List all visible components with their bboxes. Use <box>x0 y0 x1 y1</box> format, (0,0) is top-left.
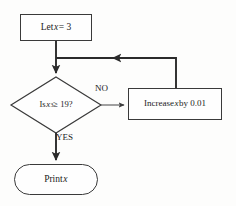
process-box-increase <box>128 88 222 120</box>
edge-feedback-loop <box>113 58 176 88</box>
flowchart-diagram: Let x = 3 Is x3 ≥ 19? Increase x by 0.01… <box>0 0 236 206</box>
terminator-print <box>14 164 98 195</box>
decision-diamond-shape <box>11 77 101 133</box>
process-box-let <box>20 14 92 41</box>
